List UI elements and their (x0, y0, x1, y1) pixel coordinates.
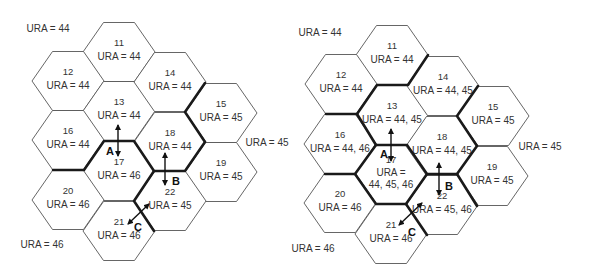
ura-area-label: URA = 44 (298, 27, 342, 38)
arrow-label: A (380, 148, 388, 160)
cell-id: 20 (63, 185, 74, 196)
cell-ura-value: URA = 44 (46, 139, 90, 150)
cell-ura-value: URA = 45 (199, 112, 243, 123)
cell-ura-value: URA = 46 (97, 170, 141, 181)
cell-ura-value: URA = 46 (318, 202, 362, 213)
arrow-label: B (445, 180, 453, 192)
cell-id: 11 (114, 37, 124, 48)
cell-id: 21 (386, 219, 397, 230)
ura-area-label: URA = 46 (291, 243, 335, 254)
cell-ura-value: URA = 44 (319, 83, 363, 94)
cell-ura-value: URA = 44, 45 (412, 145, 472, 156)
cell-id: 11 (387, 40, 397, 51)
cell-id: 20 (335, 188, 346, 199)
cell-id: 21 (114, 216, 125, 227)
cell-ura-value-cont: 44, 45, 46 (369, 179, 414, 190)
cell-ura-value: URA = 45, 46 (412, 204, 472, 215)
cell-ura-value: URA = 46 (46, 199, 90, 210)
cell-id: 19 (487, 161, 498, 172)
cell-id: 14 (438, 71, 449, 82)
cell-ura-value: URA = 44 (148, 81, 192, 92)
ura-area-label: URA = 46 (20, 239, 64, 250)
cell-id: 12 (63, 66, 74, 77)
panel-right-multi-ura: 11URA = 4412URA = 4413URA = 44, 4514URA … (291, 26, 562, 264)
cell-id: 22 (165, 186, 176, 197)
cell-ura-value: URA = 46 (369, 233, 413, 244)
cells: 11URA = 4412URA = 4413URA = 44, 4514URA … (304, 26, 529, 264)
cell-id: 13 (387, 100, 398, 111)
cell-id: 13 (114, 96, 125, 107)
ura-area-label: URA = 45 (518, 141, 562, 152)
cell-id: 14 (165, 67, 176, 78)
cell-ura-value: URA = 44 (97, 110, 141, 121)
cell-id: 16 (335, 129, 346, 140)
cell-id: 15 (488, 101, 499, 112)
cell-id: 15 (216, 98, 227, 109)
panel-left-single-ura: 11URA = 4412URA = 4413URA = 4414URA = 44… (20, 23, 289, 261)
cell-ura-value: URA = 44 (370, 54, 414, 65)
cell-ura-value: URA = 44, 45 (362, 114, 422, 125)
arrow-label: C (408, 226, 416, 238)
cell-id: 12 (336, 69, 347, 80)
cells: 11URA = 4412URA = 4413URA = 4414URA = 44… (32, 23, 257, 261)
cell-id: 19 (216, 157, 227, 168)
cell-ura-value: URA = 45 (148, 200, 192, 211)
cell-ura-value: URA = 45 (471, 115, 515, 126)
cell-id: 18 (437, 131, 448, 142)
cell-ura-value: URA = 44 (97, 51, 141, 62)
cell-ura-value: URA = 44 (148, 141, 192, 152)
arrow-label: C (134, 221, 142, 233)
cell-ura-value: URA = (376, 167, 405, 178)
ura-area-label: URA = 45 (245, 137, 289, 148)
cell-ura-value: URA = 45 (199, 171, 243, 182)
cell-ura-value: URA = 44, 46 (310, 143, 370, 154)
cell-id: 18 (165, 127, 176, 138)
arrow-label: A (106, 145, 114, 157)
arrow-label: B (172, 175, 180, 187)
ura-cell-diagram: 11URA = 4412URA = 4413URA = 4414URA = 44… (0, 0, 589, 279)
cell-ura-value: URA = 45 (470, 175, 514, 186)
cell-ura-value: URA = 44 (46, 80, 90, 91)
cell-id: 16 (63, 125, 74, 136)
ura-area-label: URA = 44 (26, 23, 70, 34)
cell-id: 17 (114, 156, 125, 167)
cell-ura-value: URA = 44, 45 (413, 85, 473, 96)
